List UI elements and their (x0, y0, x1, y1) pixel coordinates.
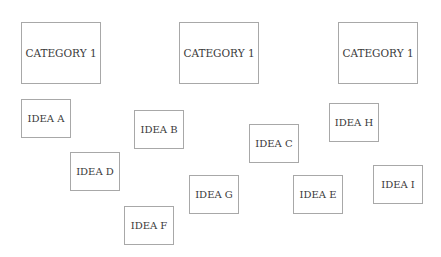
idea-label: IDEA A (28, 113, 65, 124)
idea-box-g: IDEA G (189, 175, 239, 214)
idea-box-e: IDEA E (293, 175, 343, 214)
idea-label: IDEA I (381, 179, 415, 190)
idea-label: IDEA H (335, 117, 373, 128)
idea-box-b: IDEA B (134, 110, 184, 149)
idea-label: IDEA F (131, 220, 168, 231)
idea-label: IDEA E (300, 189, 337, 200)
category-box-3: CATEGORY 1 (338, 22, 418, 84)
idea-box-h: IDEA H (329, 103, 379, 142)
category-box-2: CATEGORY 1 (179, 22, 259, 84)
idea-box-c: IDEA C (249, 124, 299, 163)
category-box-1: CATEGORY 1 (21, 22, 101, 84)
idea-label: IDEA B (140, 124, 177, 135)
idea-box-f: IDEA F (124, 206, 174, 245)
idea-box-d: IDEA D (70, 152, 120, 191)
idea-label: IDEA C (255, 138, 292, 149)
category-label: CATEGORY 1 (183, 47, 254, 59)
category-label: CATEGORY 1 (25, 47, 96, 59)
idea-label: IDEA G (195, 189, 233, 200)
idea-box-a: IDEA A (21, 99, 71, 138)
idea-box-i: IDEA I (373, 165, 423, 204)
idea-label: IDEA D (76, 166, 114, 177)
category-label: CATEGORY 1 (342, 47, 413, 59)
